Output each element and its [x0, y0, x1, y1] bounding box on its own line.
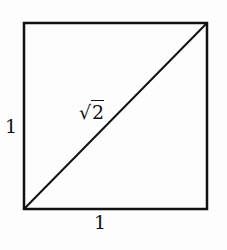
square-diagram	[0, 0, 227, 250]
diagonal-line	[24, 23, 207, 209]
diagonal-label: √2	[79, 103, 104, 122]
diagram-canvas: 1 √2 1	[0, 0, 227, 250]
radicand: 2	[91, 100, 104, 123]
bottom-side-label: 1	[94, 213, 106, 232]
left-side-label: 1	[5, 117, 17, 136]
radical-sign: √	[79, 101, 91, 123]
